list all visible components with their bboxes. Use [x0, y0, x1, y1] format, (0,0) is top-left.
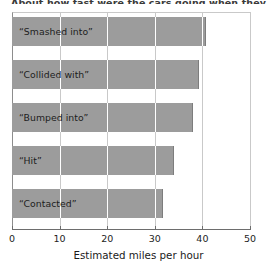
gridline-over-bar-20 [107, 189, 108, 218]
gridline-over-bar-30 [155, 103, 156, 132]
gridline-over-bar-30 [155, 60, 156, 89]
gridline-50 [250, 12, 251, 229]
bar-category-label: “Collided with” [19, 60, 89, 89]
gridline-over-bar-10 [60, 146, 61, 175]
bar-category-label: “Hit” [19, 146, 42, 175]
x-tick-50 [250, 226, 251, 230]
bar-row: “Hit” [12, 146, 250, 175]
x-axis-title: Estimated miles per hour [0, 249, 277, 261]
bar-chart-figure: About how fast were the cars going when … [0, 0, 277, 275]
x-tick-label: 30 [149, 233, 161, 244]
x-tick-label: 40 [196, 233, 208, 244]
bars-group: “Smashed into”“Collided with”“Bumped int… [12, 12, 250, 229]
gridline-over-bar-30 [155, 17, 156, 46]
x-tick-label: 50 [244, 233, 256, 244]
bar-category-label: “Contacted” [19, 189, 77, 218]
figure-caption: Adapted from Loftus & Palmer (1974) [10, 270, 277, 275]
gridline-over-bar-30 [155, 146, 156, 175]
bar-category-label: “Bumped into” [19, 103, 88, 132]
gridline-over-bar-30 [155, 189, 156, 218]
gridline-over-bar-20 [107, 60, 108, 89]
bar-row: “Bumped into” [12, 103, 250, 132]
gridline-over-bar-20 [107, 146, 108, 175]
x-tick-label: 0 [9, 233, 15, 244]
bar-row: “Smashed into” [12, 17, 250, 46]
x-tick-label: 20 [101, 233, 113, 244]
bar-row: “Collided with” [12, 60, 250, 89]
x-axis-line [12, 229, 251, 230]
plot-area: “Smashed into”“Collided with”“Bumped int… [12, 12, 250, 229]
chart-title: About how fast were the cars going when … [0, 0, 277, 4]
chart-title-prefix: About how fast were the cars going when … [11, 0, 266, 4]
bar-row: “Contacted” [12, 189, 250, 218]
gridline-over-bar-40 [202, 17, 203, 46]
gridline-over-bar-20 [107, 17, 108, 46]
x-tick-label: 10 [54, 233, 66, 244]
gridline-over-bar-20 [107, 103, 108, 132]
bar-category-label: “Smashed into” [19, 17, 93, 46]
